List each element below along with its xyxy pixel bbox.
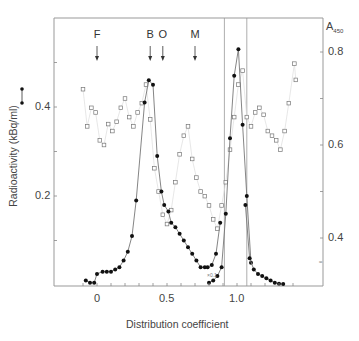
scale-annotation: ×0.1: [207, 272, 217, 278]
y2-tick-0-6: 0.6: [328, 138, 343, 150]
y-tick-0-4: 0.4: [35, 100, 50, 112]
chart-canvas: ≈: [0, 0, 359, 341]
vertical-guide-lines: [224, 18, 246, 286]
y2-tick-0-8: 0.8: [328, 45, 343, 57]
radioactivity-series: [84, 47, 285, 286]
y-axis-label: Radioactivity (kBq/ml): [7, 105, 19, 207]
marker-arrows: [95, 46, 197, 61]
axis-ticks: ≈: [54, 52, 323, 286]
marker-label-b: B: [147, 28, 154, 40]
marker-label-o: O: [159, 28, 168, 40]
marker-label-m: M: [190, 28, 199, 40]
marker-label-f: F: [94, 28, 101, 40]
x-tick-0: 0: [94, 292, 100, 304]
legend-symbol-radioactivity: [20, 87, 24, 105]
x-tick-0-5: 0.5: [159, 292, 174, 304]
x-axis-label: Distribution coefficient: [126, 318, 229, 330]
x-tick-1-0: 1.0: [229, 292, 244, 304]
svg-text:≈: ≈: [319, 259, 323, 265]
a450-series: [81, 62, 297, 231]
y-tick-0-2: 0.2: [35, 189, 50, 201]
y2-tick-0-4: 0.4: [328, 231, 343, 243]
y2-axis-label: A450: [326, 20, 343, 34]
